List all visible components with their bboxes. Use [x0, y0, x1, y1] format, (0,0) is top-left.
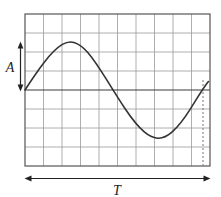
- figure-canvas: A T: [0, 0, 221, 197]
- sine-wave-figure: A T: [0, 0, 221, 197]
- period-label: T: [113, 183, 122, 197]
- amplitude-label: A: [5, 60, 15, 75]
- figure-background: [0, 0, 221, 197]
